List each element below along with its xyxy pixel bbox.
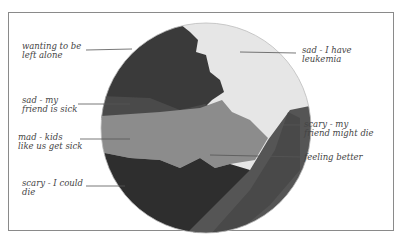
- label-sad-friend-sick: sad - my friend is sick: [22, 96, 77, 114]
- leader-wanting-alone: [86, 49, 132, 50]
- label-sad-leukemia: sad - I have leukemia: [302, 46, 352, 64]
- label-scary-friend-die: scary - my friend might die: [304, 120, 374, 138]
- label-wanting-alone: wanting to be left alone: [22, 42, 81, 60]
- label-scary-could-die: scary - I could die: [22, 179, 83, 197]
- label-mad-kids-sick: mad - kids like us get sick: [18, 133, 82, 151]
- label-feeling-better: feeling better: [304, 153, 363, 162]
